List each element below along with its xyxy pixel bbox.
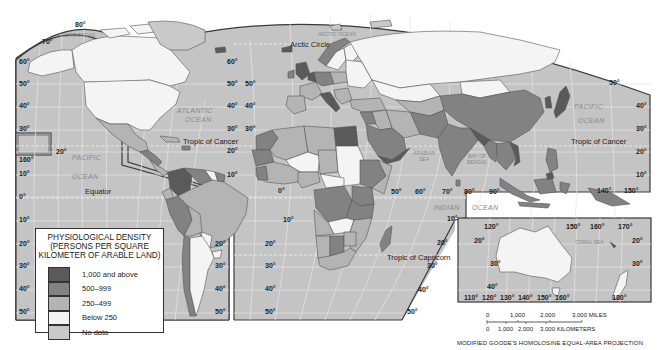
svg-text:130°: 130°: [500, 294, 515, 301]
svg-text:40°: 40°: [487, 283, 498, 290]
tropic-of-capricorn-label: Tropic of Capricorn: [387, 253, 451, 262]
svg-text:70°: 70°: [442, 188, 453, 195]
svg-text:1,000: 1,000: [498, 326, 514, 332]
legend-swatch: [48, 311, 70, 326]
svg-text:40°: 40°: [245, 102, 256, 109]
svg-text:30°: 30°: [245, 125, 256, 132]
svg-text:150°: 150°: [566, 223, 581, 230]
legend-swatch: [48, 267, 70, 282]
svg-text:40°: 40°: [19, 102, 30, 109]
scale-bar-graphic: 0 1,000 2,000 3,000 MILES 0 1,000 2,000 …: [486, 310, 656, 338]
legend-item: Below 250: [48, 311, 138, 326]
svg-text:10°: 10°: [19, 170, 30, 177]
legend-swatch: [48, 296, 70, 311]
svg-text:30°: 30°: [215, 262, 226, 269]
svg-text:50°: 50°: [391, 188, 402, 195]
svg-text:40°: 40°: [265, 285, 276, 292]
svg-text:30°: 30°: [632, 260, 643, 267]
svg-text:3,000 MILES: 3,000 MILES: [572, 312, 607, 318]
svg-text:20°: 20°: [56, 148, 67, 155]
svg-text:160°: 160°: [19, 156, 34, 163]
ocean-label: BENGAL: [467, 159, 488, 165]
arctic-circle-label: Arctic Circle: [290, 40, 330, 49]
svg-text:30°: 30°: [427, 262, 438, 269]
svg-text:160°: 160°: [555, 294, 570, 301]
svg-text:10°: 10°: [227, 171, 238, 178]
svg-text:40°: 40°: [227, 102, 238, 109]
ocean-label: PACIFIC: [574, 103, 604, 110]
svg-text:0: 0: [486, 312, 490, 318]
svg-text:2,000: 2,000: [540, 312, 556, 318]
svg-text:50°: 50°: [407, 308, 418, 315]
ocean-label: OCEAN: [185, 116, 212, 123]
svg-text:20°: 20°: [437, 239, 448, 246]
svg-text:20°: 20°: [19, 240, 30, 247]
svg-text:80°: 80°: [75, 21, 86, 28]
ocean-label: OCEAN: [72, 173, 99, 180]
svg-text:120°: 120°: [482, 294, 497, 301]
tropic-of-cancer-label: Tropic of Cancer: [183, 137, 239, 146]
projection-label: MODIFIED GOODE'S HOMOLOSINE EQUAL-AREA P…: [457, 340, 643, 346]
svg-text:0: 0: [486, 326, 490, 332]
svg-text:20°: 20°: [474, 237, 485, 244]
svg-text:10°: 10°: [19, 216, 30, 223]
svg-text:50°: 50°: [19, 80, 30, 87]
equator-label: Equator: [85, 187, 112, 196]
svg-text:20°: 20°: [636, 148, 647, 155]
legend-item: No data: [48, 325, 138, 340]
svg-text:30°: 30°: [19, 125, 30, 132]
ocean-label: INDIAN: [434, 204, 460, 211]
ocean-label: CORAL SEA: [575, 239, 604, 245]
svg-text:20°: 20°: [265, 240, 276, 247]
ocean-label: ARCTIC OCEAN: [317, 31, 356, 37]
svg-text:20°: 20°: [632, 237, 643, 244]
svg-text:40°: 40°: [636, 102, 647, 109]
svg-text:150°: 150°: [624, 187, 639, 194]
svg-text:60°: 60°: [227, 58, 238, 65]
ocean-label: ARCTIC OCEAN: [56, 32, 95, 38]
ocean-label: OCEAN: [578, 117, 605, 124]
svg-text:110°: 110°: [464, 294, 478, 301]
svg-text:10°: 10°: [447, 215, 458, 222]
svg-text:50°: 50°: [245, 80, 256, 87]
svg-text:20°: 20°: [215, 240, 226, 247]
legend-item: 500–999: [48, 282, 138, 297]
svg-text:50°: 50°: [265, 308, 276, 315]
legend: PHYSIOLOGICAL DENSITY (PERSONS PER SQUAR…: [35, 228, 164, 333]
tropic-of-cancer-label: Tropic of Cancer: [571, 137, 627, 146]
svg-text:140°: 140°: [597, 187, 612, 194]
legend-swatch: [48, 282, 70, 297]
svg-text:10°: 10°: [283, 216, 294, 223]
svg-text:140°: 140°: [518, 294, 533, 301]
ocean-label: SEA: [419, 156, 430, 162]
svg-text:1,000: 1,000: [510, 312, 526, 318]
svg-text:0°: 0°: [278, 187, 285, 194]
svg-text:40°: 40°: [418, 286, 429, 293]
svg-text:3,000 KILOMETERS: 3,000 KILOMETERS: [540, 326, 595, 332]
legend-item: 250–499: [48, 296, 138, 311]
svg-text:60°: 60°: [19, 58, 30, 65]
svg-text:90°: 90°: [489, 188, 500, 195]
svg-text:20°: 20°: [227, 147, 238, 154]
svg-text:40°: 40°: [19, 285, 30, 292]
svg-text:170°: 170°: [618, 223, 633, 230]
svg-text:160°: 160°: [590, 223, 605, 230]
svg-text:30°: 30°: [490, 260, 501, 267]
svg-text:120°: 120°: [484, 223, 499, 230]
legend-swatch: [48, 325, 70, 340]
svg-text:50°: 50°: [609, 79, 620, 86]
legend-title: PHYSIOLOGICAL DENSITY (PERSONS PER SQUAR…: [36, 233, 163, 260]
scale-bar: 0 1,000 2,000 3,000 MILES 0 1,000 2,000 …: [486, 310, 656, 339]
svg-text:60°: 60°: [415, 188, 426, 195]
svg-text:10°: 10°: [636, 171, 647, 178]
svg-text:2,000: 2,000: [518, 326, 534, 332]
svg-text:180°: 180°: [612, 294, 627, 301]
svg-text:70°: 70°: [42, 38, 53, 45]
svg-text:30°: 30°: [19, 262, 30, 269]
svg-text:0°: 0°: [19, 193, 26, 200]
svg-text:30°: 30°: [227, 125, 238, 132]
svg-text:40°: 40°: [215, 285, 226, 292]
svg-text:80°: 80°: [464, 188, 475, 195]
svg-text:50°: 50°: [227, 80, 238, 87]
svg-text:50°: 50°: [215, 308, 226, 315]
